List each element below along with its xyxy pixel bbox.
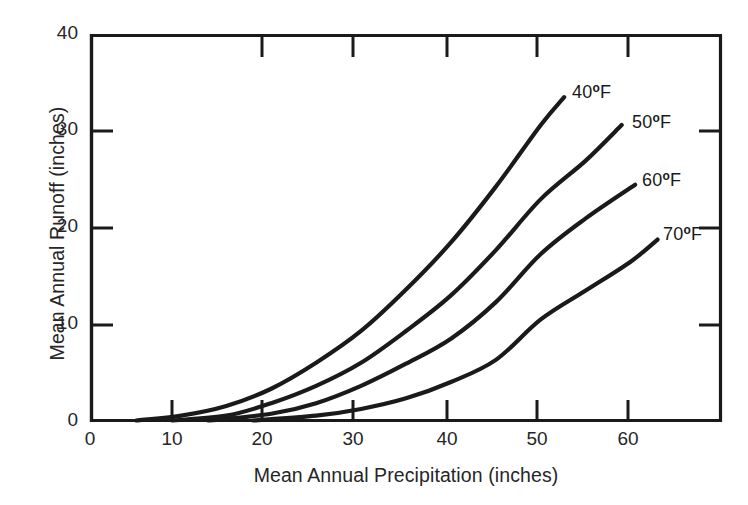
x-axis-tick-label-50: 50 [507, 428, 567, 450]
series-label-70f-value: 70 [663, 224, 683, 244]
series-label-50f-unit: F [660, 112, 671, 132]
series-curve-50f [172, 125, 621, 420]
x-axis-title: Mean Annual Precipitation (inches) [90, 464, 722, 487]
y-axis-title: Mean Annual Runoff (inches) [46, 34, 69, 434]
series-label-60f: 60oF [642, 170, 681, 191]
series-label-40f: 40oF [572, 82, 611, 103]
x-axis-tick-label-10: 10 [142, 428, 202, 450]
degree-icon-50f: o [652, 111, 660, 125]
y-tick-marks [92, 131, 113, 325]
series-label-50f-value: 50 [632, 112, 652, 132]
degree-icon-70f: o [683, 223, 691, 237]
runoff-precipitation-chart: 0 10 20 30 40 50 60 0 10 20 30 40 Mean A… [0, 0, 748, 505]
x-axis-tick-label-0: 0 [60, 428, 120, 450]
series-curves [136, 97, 657, 420]
series-label-40f-value: 40 [572, 82, 592, 102]
series-label-60f-value: 60 [642, 170, 662, 190]
series-curve-70f [253, 240, 657, 421]
series-curve-60f [208, 185, 635, 421]
series-label-70f-unit: F [691, 224, 702, 244]
degree-icon-40f: o [592, 81, 600, 95]
series-label-50f: 50oF [632, 112, 671, 133]
x-axis-tick-label-20: 20 [232, 428, 292, 450]
series-label-60f-unit: F [670, 170, 681, 190]
x-axis-tick-label-30: 30 [323, 428, 383, 450]
series-label-40f-unit: F [600, 82, 611, 102]
x-axis-tick-label-60: 60 [598, 428, 658, 450]
series-label-70f: 70oF [663, 224, 702, 245]
series-curve-40f [136, 97, 564, 420]
degree-icon-60f: o [662, 169, 670, 183]
x-axis-tick-label-40: 40 [417, 428, 477, 450]
x-tick-marks-top [262, 36, 628, 57]
